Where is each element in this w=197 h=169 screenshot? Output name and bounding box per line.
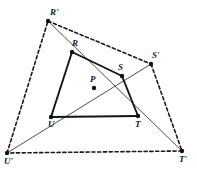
segment-U-R (51, 52, 72, 117)
label-T: T (135, 120, 141, 129)
point-Tprime (180, 149, 184, 153)
segment-Rprime-Sprime (48, 21, 151, 64)
label-Tprime: T' (179, 155, 187, 164)
label-S: S (118, 63, 123, 72)
point-P (92, 86, 96, 90)
point-Uprime (5, 151, 9, 155)
label-Uprime: U' (4, 157, 13, 166)
segment-R-S (72, 52, 122, 76)
geometry-figure: R' S' T' U' R S T U P (0, 0, 197, 169)
label-U: U (48, 120, 55, 129)
point-Sprime (149, 62, 153, 66)
point-R (70, 50, 74, 54)
segment-Sprime-Tprime (151, 64, 182, 151)
segment-Uprime-Rprime (7, 21, 48, 153)
label-R: R (72, 39, 78, 48)
segment-Tprime-Uprime (7, 151, 182, 153)
line-Uprime-to-Sprime (7, 64, 151, 153)
inner-quadrilateral (51, 52, 138, 117)
label-Rprime: R' (50, 8, 59, 17)
label-Sprime: S' (152, 51, 160, 60)
point-T (136, 114, 140, 118)
point-S (120, 74, 124, 78)
segment-T-U (51, 116, 138, 117)
vertex-dots (5, 19, 184, 155)
label-P: P (90, 75, 96, 84)
point-Rprime (46, 19, 50, 23)
figure-canvas (0, 0, 197, 169)
segment-S-T (122, 76, 138, 116)
